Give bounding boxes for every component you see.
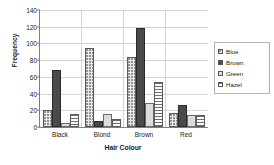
bar-group (124, 10, 166, 127)
legend-label: Brown (226, 59, 244, 66)
bar-hazel-blond (112, 119, 121, 127)
legend-swatch-green-icon (218, 71, 223, 76)
x-axis-tick-label: Brown (123, 131, 165, 138)
y-axis-tick-label: 120 (26, 23, 37, 30)
bar-hazel-red (196, 115, 205, 127)
legend-swatch-hazel-icon (218, 82, 223, 87)
y-axis-tick-label: 100 (26, 40, 37, 47)
bar-green-red (187, 115, 196, 127)
x-axis-tick-label: Black (39, 131, 81, 138)
bar-hazel-brown (154, 82, 163, 127)
legend-item-blue[interactable]: Blue (218, 46, 267, 57)
legend-item-brown[interactable]: Brown (218, 57, 267, 68)
x-axis-tick-label: Red (165, 131, 207, 138)
bar-brown-black (52, 70, 61, 127)
bar-blue-blond (85, 48, 94, 127)
legend-swatch-blue-icon (218, 49, 223, 54)
legend-swatch-brown-icon (218, 60, 223, 65)
bar-green-black (61, 123, 70, 127)
bar-group (166, 10, 208, 127)
y-axis-tick-label: 60 (30, 73, 37, 80)
legend-label: Blue (226, 48, 238, 55)
bar-brown-brown (136, 28, 145, 127)
legend-item-hazel[interactable]: Hazel (218, 79, 267, 90)
y-axis-tick-label: 80 (30, 57, 37, 64)
bar-brown-blond (94, 121, 103, 127)
legend-label: Green (226, 70, 243, 77)
bar-brown-red (178, 105, 187, 127)
x-axis-title: Hair Colour (39, 144, 207, 151)
bar-green-brown (145, 103, 154, 127)
y-axis-tick-label: 20 (30, 107, 37, 114)
bar-blue-brown (127, 57, 136, 127)
bar-blue-red (169, 113, 178, 127)
plot-area: 020406080100120140 (39, 10, 208, 128)
legend-item-green[interactable]: Green (218, 68, 267, 79)
bar-blue-black (43, 110, 52, 127)
bar-group (82, 10, 124, 127)
legend: BlueBrownGreenHazel (214, 42, 270, 94)
bar-group (40, 10, 82, 127)
bar-chart: Frequency 020406080100120140 BlackBlondB… (0, 0, 274, 165)
legend-label: Hazel (226, 81, 242, 88)
y-axis-tick-label: 40 (30, 90, 37, 97)
bar-groups (40, 10, 208, 127)
bar-hazel-black (70, 114, 79, 127)
bar-green-blond (103, 114, 112, 127)
y-axis-tick-label: 0 (33, 124, 37, 131)
y-axis-title: Frequency (11, 16, 18, 86)
x-axis-tick-label: Blond (81, 131, 123, 138)
y-axis-tick-label: 140 (26, 7, 37, 14)
